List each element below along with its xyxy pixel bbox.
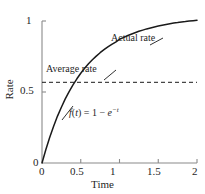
x-tick-label-1: 1 bbox=[110, 166, 116, 177]
average-rate-annotation: Average rate bbox=[46, 64, 97, 74]
y-tick-label-0: 0 bbox=[33, 157, 39, 168]
y-tick-label-1: 1 bbox=[26, 15, 32, 26]
x-tick-label-0: 0 bbox=[39, 166, 45, 177]
x-tick-label-1-5: 1.5 bbox=[147, 166, 161, 177]
actual-rate-annotation: Actual rate bbox=[111, 33, 155, 43]
y-tick-label-0-5: 0.5 bbox=[20, 85, 34, 96]
chart-plot-area bbox=[0, 0, 205, 194]
x-tick-label-2: 2 bbox=[192, 166, 198, 177]
x-axis-title: Time bbox=[0, 179, 205, 190]
formula-exponent: −t bbox=[112, 106, 119, 114]
y-axis-title: Rate bbox=[4, 70, 15, 110]
chart-figure: 1 0.5 0 0 0.5 1 1.5 2 Time Rate Actual r… bbox=[0, 0, 205, 194]
x-tick-label-0-5: 0.5 bbox=[70, 166, 84, 177]
average-rate-leader bbox=[104, 70, 116, 80]
formula-equals-expression: = 1 − bbox=[81, 107, 107, 118]
formula-annotation: f(t) = 1 − e−t bbox=[69, 107, 119, 118]
